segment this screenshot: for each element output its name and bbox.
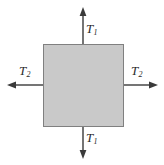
diagram-canvas bbox=[0, 0, 164, 165]
label-right-subscript: 2 bbox=[139, 70, 143, 79]
label-left-subscript: 2 bbox=[27, 70, 31, 79]
label-bottom-subscript: 1 bbox=[94, 137, 98, 146]
label-top-symbol: T bbox=[86, 21, 93, 36]
label-arrow-top: T1 bbox=[86, 22, 98, 37]
label-arrow-right: T2 bbox=[131, 64, 143, 79]
arrow-left bbox=[7, 82, 43, 89]
label-left-symbol: T bbox=[19, 63, 26, 78]
label-top-subscript: 1 bbox=[94, 28, 98, 37]
square-element bbox=[44, 45, 124, 127]
label-bottom-symbol: T bbox=[86, 130, 93, 145]
arrow-right bbox=[124, 82, 158, 89]
label-arrow-bottom: T1 bbox=[86, 131, 98, 146]
label-right-symbol: T bbox=[131, 63, 138, 78]
label-arrow-left: T2 bbox=[19, 64, 31, 79]
stress-element-diagram: T1 T1 T2 T2 bbox=[0, 0, 164, 165]
